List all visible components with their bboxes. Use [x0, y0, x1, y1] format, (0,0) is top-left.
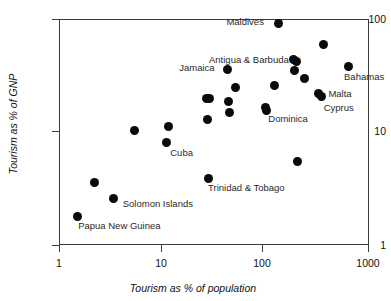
data-point	[164, 122, 173, 131]
point-label-cuba: Cuba	[170, 148, 193, 158]
x-axis-title: Tourism as % of population	[0, 282, 386, 294]
point-label-trinidad-tobago: Trinidad & Tobago	[208, 183, 285, 193]
x-tick-10	[161, 245, 162, 252]
point-label-malta: Malta	[328, 89, 351, 99]
x-tick-label-100: 100	[239, 258, 285, 269]
y-tick-label-10: 10	[338, 126, 386, 137]
x-tick-label-1000: 1000	[345, 258, 391, 269]
x-tick-1	[59, 245, 60, 252]
y-tick-10	[52, 131, 59, 132]
data-point	[319, 40, 328, 49]
point-label-papua-new-guinea: Papua New Guinea	[78, 221, 160, 231]
y-tick-label-100: 100	[338, 14, 386, 25]
point-label-maldives: Maldives	[226, 17, 264, 27]
x-tick-label-1: 1	[36, 258, 82, 269]
data-point	[300, 74, 309, 83]
point-label-solomon-islands: Solomon Islands	[123, 199, 193, 209]
y-tick-100	[52, 19, 59, 20]
data-point	[109, 194, 118, 203]
y-axis-title: Tourism as % of GNP	[7, 64, 19, 184]
data-point	[293, 157, 302, 166]
point-label-antigua-barbuda: Antigua & Barbuda	[209, 55, 289, 65]
data-point	[292, 57, 301, 66]
point-label-cyprus: Cyprus	[324, 103, 354, 113]
data-point	[274, 19, 283, 28]
x-tick-1000	[368, 245, 369, 252]
x-tick-label-10: 10	[138, 258, 184, 269]
y-tick-1	[52, 245, 59, 246]
data-point	[225, 108, 234, 117]
data-point	[223, 65, 232, 74]
data-point	[231, 83, 240, 92]
x-tick-100	[262, 245, 263, 252]
data-point	[344, 62, 353, 71]
point-label-bahamas: Bahamas	[344, 72, 384, 82]
y-tick-label-1: 1	[338, 240, 386, 251]
data-point	[224, 97, 233, 106]
plot-area	[59, 19, 369, 245]
point-label-dominica: Dominica	[268, 114, 308, 124]
data-point	[130, 126, 139, 135]
data-point	[90, 178, 99, 187]
